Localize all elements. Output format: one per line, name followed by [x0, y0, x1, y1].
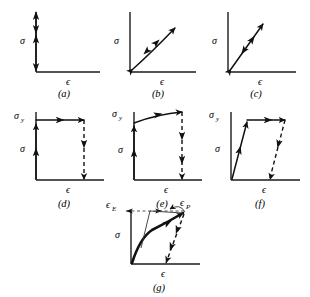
panel-f-arrow-rise-mid [235, 145, 243, 155]
panel-a-caption: (a) [58, 88, 71, 100]
panel-c-caption: (c) [250, 88, 262, 100]
panel-e-yield-label: σ [112, 108, 118, 119]
panel-b-y-axis-label: σ [114, 35, 120, 46]
panel-f: σ y σ ϵ (f) [209, 109, 300, 210]
panel-f-x-axis-label: ϵ [262, 184, 267, 195]
panel-e: σ y σ ϵ (e) [112, 108, 202, 210]
panel-d-arrow-unload-end [81, 173, 88, 180]
panel-d-x-axis-label: ϵ [66, 184, 71, 195]
panel-c-x-axis-label: ϵ [258, 76, 263, 87]
panel-c-elastic-line [231, 24, 263, 69]
panel-e-y-axis-label: σ [118, 144, 124, 155]
panel-b-x-axis-label: ϵ [160, 76, 165, 87]
panel-b-arrow-mid-reverse [141, 46, 152, 57]
panel-e-x-axis-label: ϵ [164, 184, 169, 195]
panel-c: σ ϵ (c) [212, 12, 296, 100]
panel-b-caption: (b) [152, 88, 165, 100]
panel-g-loading-curve [132, 213, 183, 263]
panel-d-yield-label-sub: y [20, 116, 25, 124]
panel-f-caption: (f) [255, 198, 265, 210]
panel-g-plastic-strain-label: ϵ [180, 197, 185, 208]
panel-a-y-axis-label: σ [20, 35, 26, 46]
panel-d: σ y σ ϵ (d) [14, 110, 104, 210]
panel-f-yield-label: σ [209, 109, 215, 120]
panel-g-caption: (g) [153, 282, 166, 294]
panel-g-y-axis-label: σ [115, 229, 121, 240]
panel-f-unload-dashed [270, 120, 285, 178]
panel-g-arrow-unload-upper [173, 225, 182, 235]
panel-b: σ ϵ (b) [114, 12, 196, 100]
panel-b-elastic-curve [133, 28, 175, 69]
panel-c-y-axis-label: σ [212, 35, 218, 46]
panel-g-arrow-unload-end [163, 255, 172, 264]
panel-e-caption: (e) [156, 198, 168, 210]
panel-g-elastic-strain-sub: E [111, 205, 117, 213]
panel-e-arrow-unload-end [179, 173, 186, 180]
panel-a-x-axis-label: ϵ [66, 76, 71, 87]
panel-g-plastic-strain-sub: P [185, 203, 191, 211]
panel-f-yield-label-sub: y [215, 115, 220, 123]
figure-container: σ ϵ (a) σ ϵ (b) σ ϵ [0, 0, 310, 297]
panel-d-y-axis-label: σ [20, 143, 26, 154]
panel-d-yield-label: σ [14, 110, 20, 121]
stress-strain-figure: σ ϵ (a) σ ϵ (b) σ ϵ [0, 0, 310, 297]
panel-e-yield-label-sub: y [118, 114, 123, 122]
panel-g: ϵ E ϵ P σ ϵ (g) [106, 197, 200, 294]
panel-d-caption: (d) [58, 198, 71, 210]
panel-g-elastic-slope-line [141, 211, 150, 248]
panel-g-elastic-strain-label: ϵ [106, 199, 111, 210]
panel-a: σ ϵ (a) [20, 11, 100, 100]
panel-f-y-axis-label: σ [215, 143, 221, 154]
panel-g-x-axis-label: ϵ [161, 268, 166, 279]
